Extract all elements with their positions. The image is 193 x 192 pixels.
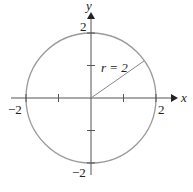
y-tick-label-neg2: −2 — [72, 165, 86, 180]
y-axis-label: y — [84, 0, 92, 13]
circle-diagram: y x 2 −2 −2 2 r = 2 — [0, 0, 193, 192]
x-tick-label-neg2: −2 — [8, 102, 22, 117]
y-tick-label-2: 2 — [80, 19, 87, 34]
y-axis-arrow-icon — [87, 12, 95, 19]
x-axis-label: x — [180, 90, 187, 105]
x-axis-arrow-icon — [171, 94, 178, 102]
x-tick-label-2: 2 — [158, 102, 165, 117]
radius-label: r = 2 — [101, 60, 128, 75]
